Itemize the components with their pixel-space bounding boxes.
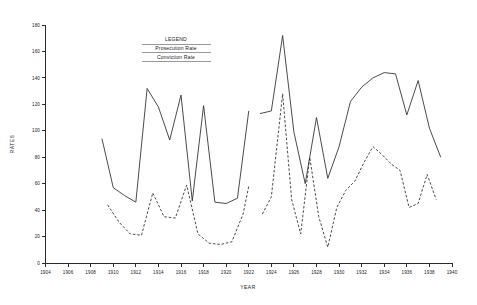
series-line-dashed [108, 185, 249, 245]
x-tick-label: 1916 [176, 270, 187, 275]
x-tick-label: 1906 [63, 270, 74, 275]
chart-legend: LEGEND Prosecution Rate Conviction Rate [142, 36, 211, 62]
x-tick-label: 1938 [424, 270, 435, 275]
x-tick-label: 1934 [379, 270, 390, 275]
legend-entry-prosecution-rate: Prosecution Rate [155, 45, 196, 51]
y-tick-label: 0 [37, 261, 40, 266]
y-tick-label: 120 [32, 102, 40, 107]
series-line-solid [102, 88, 249, 203]
x-tick-label: 1940 [447, 270, 458, 275]
x-tick-label: 1926 [289, 270, 300, 275]
data-series-group [102, 36, 441, 248]
x-tick-label: 1918 [198, 270, 209, 275]
x-tick-label: 1908 [85, 270, 96, 275]
y-tick-label: 180 [32, 23, 40, 28]
y-tick-label: 140 [32, 76, 40, 81]
x-axis-ticks: 1904190619081910191219141916191819201922… [40, 263, 457, 275]
x-tick-label: 1924 [266, 270, 277, 275]
chart-container: 020406080100120140160180 190419061908191… [0, 0, 477, 305]
y-tick-label: 40 [35, 208, 41, 213]
series-line-dashed [262, 94, 436, 247]
legend-entry-conviction-rate: Conviction Rate [157, 54, 195, 60]
legend-title: LEGEND [165, 36, 187, 42]
y-tick-label: 80 [35, 155, 41, 160]
x-tick-label: 1928 [311, 270, 322, 275]
x-tick-label: 1914 [153, 270, 164, 275]
y-tick-label: 100 [32, 128, 40, 133]
x-tick-label: 1912 [131, 270, 142, 275]
y-axis-ticks: 020406080100120140160180 [32, 23, 45, 266]
x-tick-label: 1932 [356, 270, 367, 275]
line-chart: 020406080100120140160180 190419061908191… [0, 0, 477, 305]
series-line-solid [260, 36, 441, 184]
x-tick-label: 1910 [108, 270, 119, 275]
y-tick-label: 60 [35, 181, 41, 186]
y-axis-title: RATES [9, 134, 15, 153]
x-tick-label: 1904 [40, 270, 51, 275]
x-tick-label: 1930 [334, 270, 345, 275]
y-tick-label: 20 [35, 234, 41, 239]
x-axis-title: YEAR [240, 284, 256, 290]
x-tick-label: 1922 [243, 270, 254, 275]
x-tick-label: 1936 [402, 270, 413, 275]
axis-group [46, 25, 453, 264]
x-tick-label: 1920 [221, 270, 232, 275]
y-tick-label: 160 [32, 49, 40, 54]
